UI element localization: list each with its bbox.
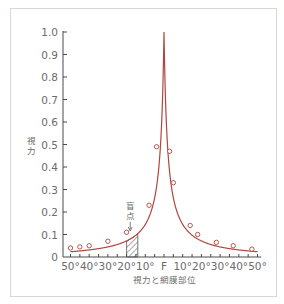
y-axis-title-char-1: 視: [27, 136, 36, 146]
data-point: [167, 149, 171, 153]
data-point: [106, 239, 110, 243]
data-point: [195, 232, 199, 236]
x-tick-label: 50°: [248, 260, 267, 272]
y-tick-label: 0.2: [41, 206, 58, 218]
y-tick-label: 0.4: [41, 161, 58, 173]
y-tick-label: 0.3: [41, 184, 58, 196]
x-tick-label: 20°: [192, 260, 211, 272]
ticks: 00.10.20.30.40.50.60.70.80.91.050°40°30°…: [41, 26, 267, 272]
y-tick-label: 0.1: [41, 229, 58, 241]
x-tick-label: 40°: [229, 260, 248, 272]
data-point: [154, 145, 158, 149]
y-tick-label: 1.0: [41, 26, 58, 38]
x-tick-label: F: [161, 260, 167, 272]
blind-spot-label: 点: [126, 211, 135, 221]
data-point: [78, 245, 82, 249]
x-tick-label: 40°: [80, 260, 99, 272]
y-axis-title-char-2: 力: [27, 146, 36, 156]
blind-spot-label: 盲: [126, 201, 135, 211]
acuity-curve: [71, 32, 258, 252]
data-point: [68, 246, 72, 250]
x-tick-label: 10°: [173, 260, 192, 272]
x-tick-label: 30°: [211, 260, 230, 272]
data-point: [171, 181, 175, 185]
x-tick-label: 50°: [61, 260, 80, 272]
y-tick-label: 0.8: [41, 71, 58, 83]
data-point: [250, 247, 254, 251]
data-point: [124, 230, 128, 234]
data-point: [188, 223, 192, 227]
y-tick-label: 0: [51, 251, 58, 263]
data-point: [147, 203, 151, 207]
y-tick-label: 0.9: [41, 49, 58, 61]
data-markers: [68, 145, 254, 252]
y-tick-label: 0.7: [41, 94, 58, 106]
data-point: [231, 244, 235, 248]
blind-spot-hatch: [127, 234, 138, 257]
axes: [63, 31, 261, 257]
visual-acuity-chart: 00.10.20.30.40.50.60.70.80.91.050°40°30°…: [0, 0, 284, 304]
y-tick-label: 0.6: [41, 116, 58, 128]
blind-spot-annotation: 盲点: [126, 201, 135, 231]
x-axis-title: 視力と網膜部位: [133, 275, 196, 285]
y-tick-label: 0.5: [41, 139, 58, 151]
x-tick-label: 10°: [136, 260, 155, 272]
data-point: [214, 240, 218, 244]
data-point: [87, 244, 91, 248]
x-tick-label: 30°: [99, 260, 118, 272]
x-tick-label: 20°: [117, 260, 136, 272]
